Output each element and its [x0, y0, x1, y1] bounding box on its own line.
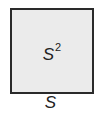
area-label-base: S	[43, 45, 54, 64]
area-label: S2	[12, 43, 92, 65]
side-length-label: S	[0, 93, 101, 113]
square-shape: S2	[10, 8, 94, 94]
area-label-exponent: 2	[55, 41, 61, 53]
